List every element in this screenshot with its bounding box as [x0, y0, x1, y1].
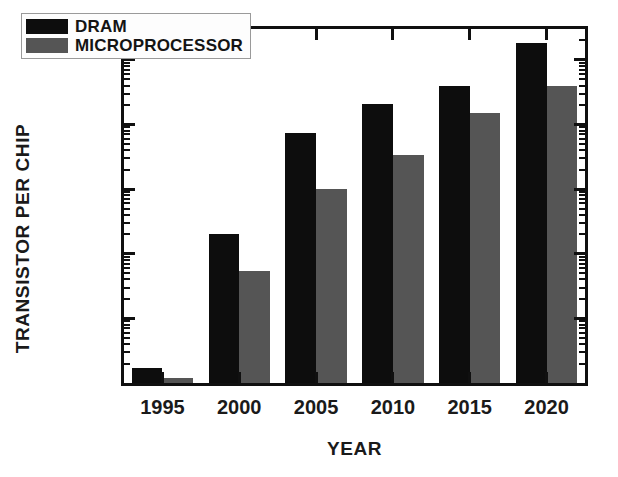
y-tick-minor	[579, 130, 585, 132]
y-tick-minor	[579, 272, 585, 274]
y-tick-minor	[124, 278, 130, 280]
bar-2020-dram	[516, 43, 547, 383]
y-tick-minor	[124, 298, 130, 300]
y-tick-minor	[124, 222, 130, 224]
y-axis-title: TRANSISTOR PER CHIP	[0, 0, 46, 477]
y-tick-minor	[579, 259, 585, 261]
y-tick-minor	[579, 191, 585, 193]
legend: DRAM MICROPROCESSOR	[21, 13, 251, 59]
x-tick	[468, 29, 471, 40]
y-tick-minor	[579, 363, 585, 365]
y-tick-minor	[124, 256, 130, 258]
legend-swatch-microprocessor	[26, 38, 68, 53]
y-tick-minor	[579, 126, 585, 128]
y-tick-minor	[579, 93, 585, 95]
y-tick-minor	[579, 324, 585, 326]
y-tick-minor	[124, 73, 130, 75]
bar-2020-microprocessor	[547, 86, 578, 383]
bar-2005-microprocessor	[316, 189, 347, 383]
bar-2005-dram	[285, 133, 316, 383]
y-tick-minor	[124, 149, 130, 151]
plot-area	[124, 29, 585, 383]
y-tick-minor	[579, 78, 585, 80]
y-tick-minor	[124, 214, 130, 216]
y-tick-minor	[579, 337, 585, 339]
y-tick-minor	[124, 337, 130, 339]
x-tick	[468, 372, 471, 383]
y-tick-minor	[124, 272, 130, 274]
bar-2010-dram	[362, 104, 393, 383]
y-tick-minor	[124, 65, 130, 67]
y-tick-minor	[124, 320, 130, 322]
bar-2015-dram	[439, 86, 470, 383]
y-tick-minor	[579, 104, 585, 106]
y-tick-minor	[579, 214, 585, 216]
y-tick-minor	[579, 343, 585, 345]
y-tick-minor	[579, 287, 585, 289]
y-tick-minor	[124, 169, 130, 171]
y-tick-minor	[579, 69, 585, 71]
y-tick-minor	[124, 130, 130, 132]
y-tick-minor	[579, 263, 585, 265]
y-tick-minor	[124, 327, 130, 329]
x-tick	[161, 372, 164, 383]
y-tick-minor	[579, 62, 585, 64]
y-tick-minor	[579, 298, 585, 300]
y-tick-minor	[579, 208, 585, 210]
y-tick-minor	[124, 93, 130, 95]
y-tick-minor	[579, 149, 585, 151]
y-tick-minor	[124, 363, 130, 365]
y-tick-minor	[124, 143, 130, 145]
y-tick-minor	[579, 332, 585, 334]
y-tick-minor	[579, 169, 585, 171]
x-axis-title: YEAR	[121, 438, 588, 460]
y-tick-minor	[124, 133, 130, 135]
bar-1995-microprocessor	[162, 378, 193, 383]
y-tick-minor	[124, 126, 130, 128]
plot-frame	[121, 26, 588, 386]
y-tick-minor	[124, 85, 130, 87]
x-tick-label-2020: 2020	[502, 396, 592, 419]
y-tick-minor	[579, 194, 585, 196]
legend-item-dram: DRAM	[26, 18, 243, 35]
y-tick-minor	[124, 343, 130, 345]
y-tick-minor	[579, 65, 585, 67]
y-tick-minor	[124, 202, 130, 204]
x-tick	[545, 372, 548, 383]
y-tick-minor	[579, 202, 585, 204]
y-tick-minor	[579, 233, 585, 235]
y-tick-minor	[124, 287, 130, 289]
y-tick-minor	[124, 78, 130, 80]
y-tick-minor	[579, 73, 585, 75]
y-tick-minor	[124, 351, 130, 353]
y-tick-minor	[124, 332, 130, 334]
y-tick-minor	[124, 198, 130, 200]
y-tick-minor	[124, 233, 130, 235]
x-tick	[391, 372, 394, 383]
y-tick-minor	[579, 351, 585, 353]
legend-label-microprocessor: MICROPROCESSOR	[75, 37, 243, 54]
x-tick	[391, 29, 394, 40]
bar-1995-dram	[132, 368, 163, 383]
y-tick-minor	[579, 198, 585, 200]
y-tick-minor	[579, 39, 585, 41]
y-tick-minor	[124, 263, 130, 265]
y-tick-minor	[124, 324, 130, 326]
legend-label-dram: DRAM	[75, 18, 127, 35]
y-tick-minor	[579, 267, 585, 269]
y-tick-minor	[124, 157, 130, 159]
y-tick-minor	[124, 194, 130, 196]
y-tick-minor	[579, 85, 585, 87]
y-tick-minor	[579, 256, 585, 258]
y-tick-minor	[579, 320, 585, 322]
y-tick-minor	[124, 138, 130, 140]
x-tick	[545, 29, 548, 40]
y-tick-minor	[579, 133, 585, 135]
chart-canvas: TRANSISTOR PER CHIP YEAR DRAM MICROPROCE…	[0, 0, 618, 477]
x-tick	[315, 372, 318, 383]
y-tick-minor	[579, 278, 585, 280]
y-tick-minor	[579, 143, 585, 145]
legend-swatch-dram	[26, 19, 68, 34]
y-tick-minor	[124, 267, 130, 269]
bar-2000-microprocessor	[239, 271, 270, 383]
